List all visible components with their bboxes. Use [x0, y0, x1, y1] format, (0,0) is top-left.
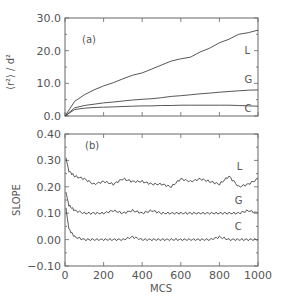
x-tick-label: 200 — [93, 269, 114, 282]
y-tick-label: 20.0 — [37, 45, 62, 58]
series-line-L — [66, 158, 258, 188]
y-tick-label: 0.10 — [37, 207, 62, 220]
y-tick-label: 0.40 — [37, 128, 62, 141]
series-line-G — [66, 192, 258, 214]
panel-a: 0.010.020.030.0LGC — [37, 12, 259, 123]
panel-a-label: (a) — [82, 34, 96, 45]
x-tick-label: 1000 — [244, 269, 272, 282]
panel-b: −0.100.000.100.200.300.40020040060080010… — [27, 128, 272, 282]
series-line-C — [65, 105, 258, 116]
x-tick-label: 800 — [209, 269, 230, 282]
y-tick-label: 30.0 — [37, 12, 62, 25]
series-label-L: L — [237, 161, 243, 172]
y-tick-label: 0.20 — [37, 181, 62, 194]
chart-figure: 0.010.020.030.0LGC −0.100.000.100.200.30… — [0, 0, 285, 305]
y-tick-label: 10.0 — [37, 77, 62, 90]
x-tick-label: 400 — [132, 269, 153, 282]
y-tick-label: 0.0 — [44, 110, 62, 123]
y-tick-label: −0.10 — [27, 260, 61, 273]
series-line-G — [65, 90, 258, 116]
x-axis-label: MCS — [150, 283, 172, 294]
series-label-L: L — [244, 45, 250, 56]
y-tick-label: 0.00 — [37, 234, 62, 247]
panel-b-label: (b) — [85, 140, 99, 151]
x-tick-label: 0 — [62, 269, 69, 282]
series-label-C: C — [244, 103, 251, 114]
series-label-G: G — [244, 74, 252, 85]
series-label-C: C — [235, 221, 242, 232]
top-y-axis-label: ⟨r²⟩ / d² — [5, 54, 16, 90]
series-label-G: G — [235, 195, 243, 206]
bottom-y-axis-label: SLOPE — [11, 184, 22, 216]
y-tick-label: 0.30 — [37, 154, 62, 167]
plot-frame — [65, 18, 258, 116]
x-tick-label: 600 — [170, 269, 191, 282]
plot-frame — [65, 134, 258, 266]
